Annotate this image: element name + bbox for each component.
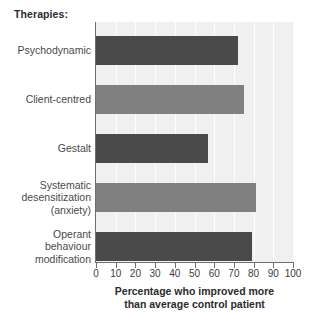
x-axis-tick-label: 0 bbox=[93, 268, 99, 279]
y-axis-line bbox=[95, 22, 96, 262]
category-label: Psychodynamic bbox=[3, 44, 91, 57]
category-label: Systematic desensitization (anxiety) bbox=[3, 179, 91, 217]
x-axis-tick-label: 60 bbox=[209, 268, 220, 279]
x-axis-tick-label: 80 bbox=[248, 268, 259, 279]
gridline bbox=[254, 22, 255, 262]
x-axis-tick-label: 50 bbox=[189, 268, 200, 279]
bar bbox=[96, 183, 256, 212]
bar bbox=[96, 36, 238, 65]
bar bbox=[96, 232, 252, 261]
chart-group-title: Therapies: bbox=[14, 8, 68, 20]
x-axis-tick-label: 30 bbox=[150, 268, 161, 279]
bar-chart-figure: Therapies: 0102030405060708090100 Psycho… bbox=[0, 0, 312, 314]
category-label: Gestalt bbox=[3, 142, 91, 155]
bar bbox=[96, 85, 244, 114]
category-label: Operant behaviour modification bbox=[3, 228, 91, 266]
x-axis-tick-label: 40 bbox=[169, 268, 180, 279]
x-axis-tick-label: 90 bbox=[268, 268, 279, 279]
category-label: Client-centred bbox=[3, 93, 91, 106]
gridline bbox=[293, 22, 294, 262]
gridline bbox=[273, 22, 274, 262]
x-axis-tick-label: 100 bbox=[285, 268, 302, 279]
x-axis-tick-label: 20 bbox=[130, 268, 141, 279]
bar bbox=[96, 134, 208, 163]
plot-area bbox=[96, 22, 293, 262]
x-axis-tick-label: 10 bbox=[110, 268, 121, 279]
x-axis-tick-label: 70 bbox=[228, 268, 239, 279]
x-axis-caption: Percentage who improved more than averag… bbox=[96, 285, 293, 311]
